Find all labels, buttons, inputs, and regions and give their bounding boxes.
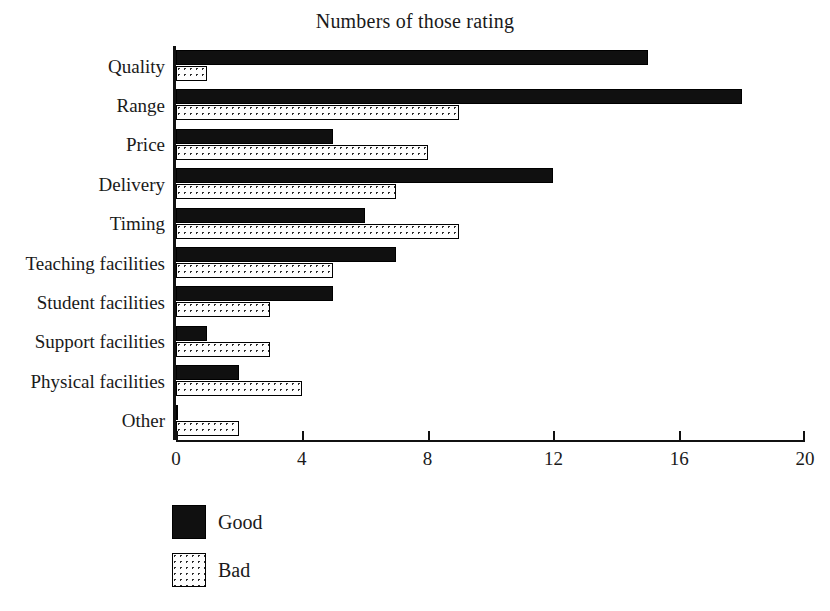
bar-bad <box>176 66 207 81</box>
category-row: Student facilities <box>176 282 805 321</box>
bar-good <box>176 129 333 144</box>
bar-bad <box>176 302 270 317</box>
x-axis-tick-label: 0 <box>171 448 181 470</box>
bar-good <box>176 168 553 183</box>
x-axis-tick-label: 16 <box>670 448 689 470</box>
x-axis-tick <box>679 431 681 440</box>
legend-swatch-good-icon <box>172 505 206 539</box>
bar-good <box>176 326 207 341</box>
category-label: Delivery <box>99 174 165 193</box>
category-row: Timing <box>176 204 805 243</box>
category-label: Physical facilities <box>30 371 165 390</box>
category-label: Other <box>122 411 165 430</box>
category-row: Physical facilities <box>176 361 805 400</box>
category-row: Quality <box>176 46 805 85</box>
category-row: Delivery <box>176 164 805 203</box>
x-axis-line <box>176 440 805 442</box>
chart-title: Numbers of those rating <box>0 10 830 33</box>
x-axis: 048121620 <box>176 440 805 480</box>
category-label: Quality <box>108 56 165 75</box>
bar-good <box>176 405 178 420</box>
x-axis-tick-label: 8 <box>423 448 433 470</box>
x-axis-tick <box>176 431 178 440</box>
category-label: Price <box>126 135 165 154</box>
category-label: Range <box>116 96 165 115</box>
legend-label-good: Good <box>218 511 262 534</box>
category-row: Range <box>176 85 805 124</box>
bar-good <box>176 247 396 262</box>
x-axis-tick <box>428 431 430 440</box>
plot-area: QualityRangePriceDeliveryTimingTeaching … <box>176 46 805 440</box>
x-axis-tick <box>553 431 555 440</box>
bar-good <box>176 208 365 223</box>
category-label: Student facilities <box>37 293 165 312</box>
category-label: Support facilities <box>35 332 165 351</box>
x-axis-tick <box>302 431 304 440</box>
bar-good <box>176 89 742 104</box>
legend-swatch-bad-icon <box>172 553 206 587</box>
bar-bad <box>176 263 333 278</box>
category-label: Timing <box>110 214 165 233</box>
bar-good <box>176 286 333 301</box>
category-row: Other <box>176 401 805 440</box>
bar-bad <box>176 342 270 357</box>
bar-good <box>176 365 239 380</box>
x-axis-tick-label: 4 <box>297 448 307 470</box>
bar-bad <box>176 145 428 160</box>
x-axis-tick-label: 12 <box>544 448 563 470</box>
category-label: Teaching facilities <box>25 253 165 272</box>
legend-label-bad: Bad <box>218 559 250 582</box>
category-row: Teaching facilities <box>176 243 805 282</box>
bar-bad <box>176 224 459 239</box>
category-row: Support facilities <box>176 322 805 361</box>
bar-bad <box>176 105 459 120</box>
bar-bad <box>176 184 396 199</box>
category-row: Price <box>176 125 805 164</box>
bar-good <box>176 50 648 65</box>
bar-bad <box>176 421 239 436</box>
x-axis-tick-label: 20 <box>796 448 815 470</box>
x-axis-tick <box>803 431 805 440</box>
bar-bad <box>176 381 302 396</box>
